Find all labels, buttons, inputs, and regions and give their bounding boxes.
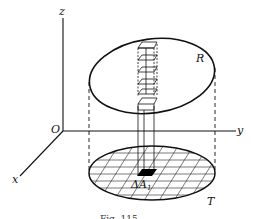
element-label-main: ΔA [130,178,147,191]
surface-label: R [195,52,204,65]
z-axis-label: z [58,5,65,18]
element-label-subscript: 1 [147,184,151,192]
surface-area-diagram: z O y x R T ΔA1 Fig. 115 [0,0,253,219]
projection-label: T [207,195,216,208]
area-element [137,169,157,176]
x-axis [20,131,63,176]
figure-caption: Fig. 115 [100,214,138,219]
element-label: ΔA1 [130,178,151,192]
y-axis-label: y [236,124,244,137]
column-prism [138,42,157,175]
origin-label: O [51,123,60,136]
x-axis-label: x [12,173,19,186]
coordinate-axes [20,18,236,176]
